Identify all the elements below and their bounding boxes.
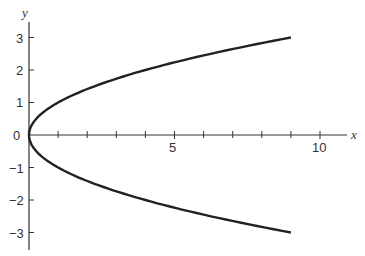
y-tick-label-3: 3 <box>16 31 23 46</box>
y-tick-label-neg1: −1 <box>9 161 24 176</box>
origin-label: 0 <box>13 128 20 143</box>
x-tick-label-5: 5 <box>169 140 176 155</box>
x-tick-label-10: 10 <box>312 140 326 155</box>
y-tick-label-neg2: −2 <box>9 193 24 208</box>
y-tick-label-1: 1 <box>16 95 23 110</box>
y-tick-label-neg3: −3 <box>9 226 24 241</box>
y-axis-label: y <box>20 5 28 20</box>
x-axis-label: x <box>350 127 357 142</box>
y-tick-label-2: 2 <box>16 63 23 78</box>
chart: y x 0 5 10 3 2 1 −1 −2 −3 <box>0 0 365 256</box>
